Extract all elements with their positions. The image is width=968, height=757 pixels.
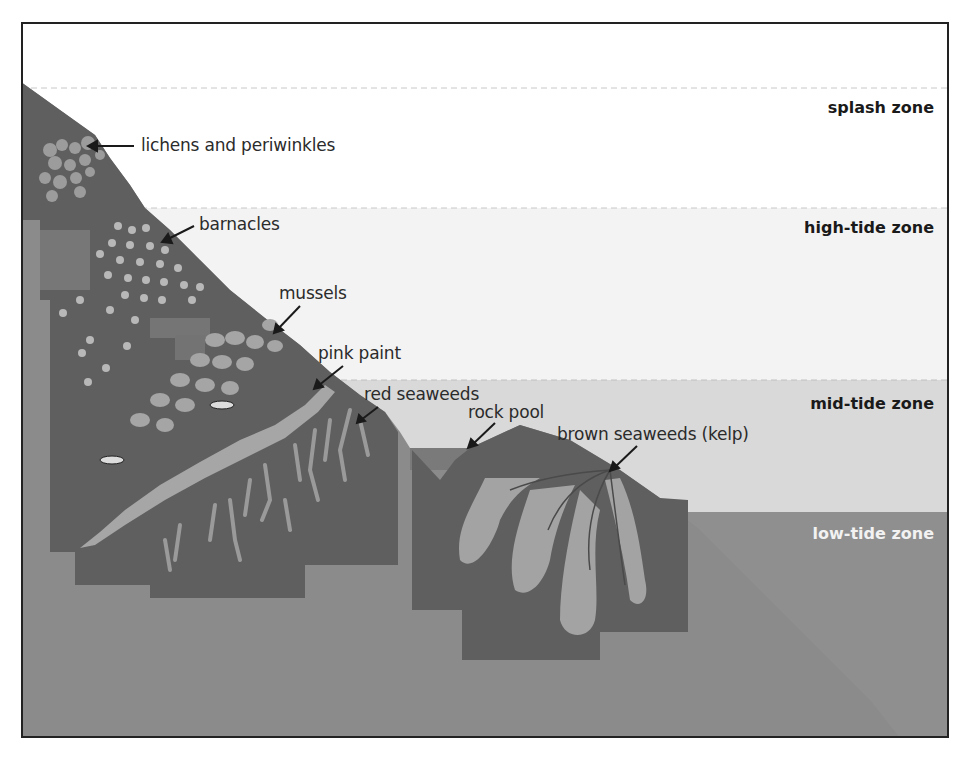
label-lichens-periwinkles: lichens and periwinkles [141, 135, 335, 155]
tide-zone-illustration [0, 0, 968, 757]
label-mussels: mussels [279, 283, 347, 303]
label-brown-seaweeds-kelp: brown seaweeds (kelp) [557, 424, 749, 444]
label-pink-paint: pink paint [318, 343, 401, 363]
snail [210, 401, 234, 409]
zone-label-splash: splash zone [828, 98, 934, 117]
label-rock-pool: rock pool [468, 402, 544, 422]
label-barnacles: barnacles [199, 214, 280, 234]
zone-label-mid-tide: mid-tide zone [810, 394, 934, 413]
snail [100, 456, 124, 464]
rock-step [40, 230, 90, 290]
splash-zone-band [21, 22, 949, 208]
zone-label-high-tide: high-tide zone [804, 218, 934, 237]
label-red-seaweeds: red seaweeds [364, 384, 479, 404]
zone-label-low-tide: low-tide zone [813, 524, 934, 543]
